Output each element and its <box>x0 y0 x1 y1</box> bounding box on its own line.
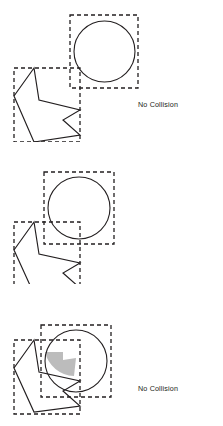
panel-no-collision-1: No Collision <box>0 0 223 142</box>
panel-no-collision-2: No Collision <box>0 142 223 284</box>
circle-shape <box>74 21 135 82</box>
panel-3-graphic <box>0 284 223 426</box>
arrow-bounding-box <box>14 222 80 284</box>
arrow-shape <box>14 222 80 284</box>
circle-bounding-box <box>70 15 138 88</box>
panel-2-graphic <box>0 142 223 284</box>
overlap-region <box>45 352 76 376</box>
panel-1-graphic <box>0 0 223 142</box>
circle-shape <box>48 177 110 239</box>
circle-bounding-box <box>44 172 114 244</box>
panel-1-caption: No Collision <box>138 101 178 108</box>
collision-detection-figure: No Collision No Collision Collision Dete… <box>0 0 223 426</box>
panel-collision-detected: Collision Detected <box>0 284 223 426</box>
